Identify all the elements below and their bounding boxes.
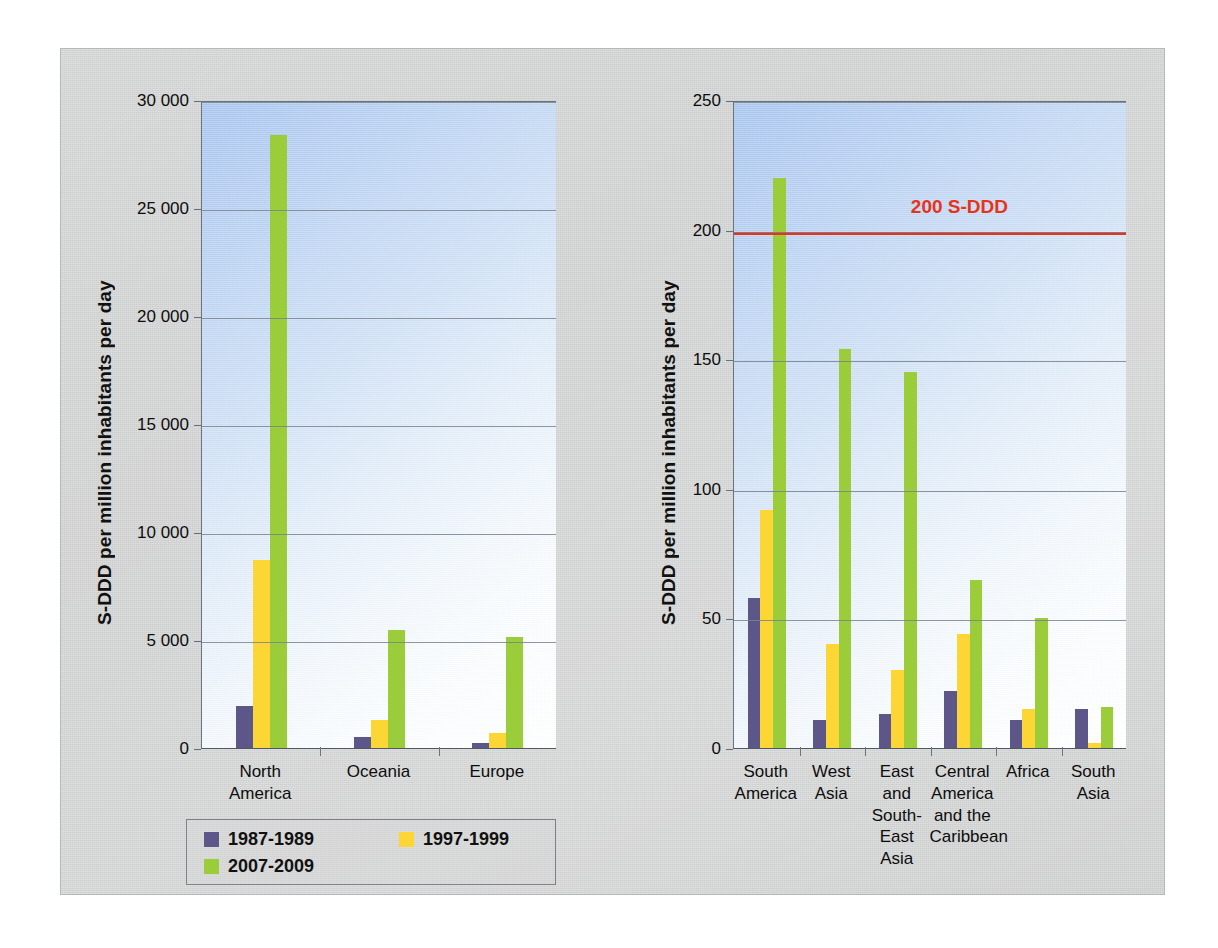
y-tick-label: 30 000 [137, 91, 189, 111]
bar [270, 135, 287, 748]
bar [489, 733, 506, 748]
gridline [202, 318, 556, 319]
chart-panel-left: S-DDD per million inhabitants per day 05… [61, 49, 601, 896]
gridline [202, 426, 556, 427]
y-tick-label: 0 [180, 739, 189, 759]
y-axis-title-right: S-DDD per million inhabitants per day [658, 153, 680, 753]
x-axis-category-label: East and South- East Asia [864, 761, 930, 870]
bar [236, 706, 253, 748]
bar [1035, 618, 1048, 748]
gridline [202, 210, 556, 211]
y-tick-label: 150 [693, 350, 721, 370]
y-tick-label: 20 000 [137, 307, 189, 327]
y-tick-mark [726, 101, 733, 102]
gridline [202, 534, 556, 535]
x-axis-category-label: South Asia [1061, 761, 1127, 805]
y-tick-mark [726, 490, 733, 491]
bar [354, 737, 371, 748]
x-axis-categories-right: South AmericaWest AsiaEast and South- Ea… [733, 761, 1126, 891]
gridline [734, 232, 1126, 233]
legend-item-1987-1989: 1987-1989 [204, 829, 314, 850]
bar [371, 720, 388, 748]
gridline [734, 491, 1126, 492]
x-axis-tick [865, 747, 866, 756]
bar [760, 510, 773, 748]
x-axis-category-label: South America [733, 761, 799, 805]
x-axis-category-label: Africa [995, 761, 1061, 783]
bar [957, 634, 970, 748]
y-tick-mark [194, 317, 201, 318]
y-tick-label: 250 [693, 91, 721, 111]
y-tick-mark [726, 749, 733, 750]
bar [891, 670, 904, 748]
y-tick-mark [194, 641, 201, 642]
bar [1101, 707, 1114, 748]
y-tick-label: 100 [693, 480, 721, 500]
y-tick-mark [194, 209, 201, 210]
bar [506, 637, 523, 748]
plot-area-left [201, 101, 556, 749]
bar [253, 560, 270, 748]
x-axis-category-label: North America [201, 761, 319, 805]
bar [813, 720, 826, 749]
bar [1010, 720, 1023, 749]
bars-layer-left [202, 102, 556, 748]
y-tick-mark [194, 425, 201, 426]
figure-frame: S-DDD per million inhabitants per day 05… [60, 48, 1165, 895]
bar [388, 630, 405, 748]
legend: 1987-1989 1997-1999 2007-2009 [186, 819, 556, 885]
y-tick-mark [726, 231, 733, 232]
threshold-label: 200 S-DDD [911, 196, 1008, 218]
gridline [734, 620, 1126, 621]
legend-swatch-icon [204, 832, 219, 847]
plot-area-right: 200 S-DDD [733, 101, 1126, 749]
bar [1075, 709, 1088, 748]
y-tick-label: 5 000 [146, 631, 189, 651]
y-tick-label: 10 000 [137, 523, 189, 543]
bar [826, 644, 839, 748]
x-axis-category-label: Oceania [319, 761, 437, 783]
legend-label: 2007-2009 [228, 856, 314, 877]
x-axis-tick [1062, 747, 1063, 756]
gridline [734, 102, 1126, 103]
bar [472, 743, 489, 748]
y-tick-mark [194, 749, 201, 750]
gridline [202, 102, 556, 103]
bar [773, 178, 786, 748]
legend-label: 1987-1989 [228, 829, 314, 850]
y-tick-mark [726, 619, 733, 620]
y-tick-label: 200 [693, 221, 721, 241]
y-tick-mark [194, 101, 201, 102]
x-axis-tick [996, 747, 997, 756]
bar [1022, 709, 1035, 748]
gridline [734, 361, 1126, 362]
legend-swatch-icon [204, 859, 219, 874]
x-axis-category-label: Central America and the Caribbean [930, 761, 996, 848]
legend-label: 1997-1999 [423, 829, 509, 850]
bar [1088, 743, 1101, 748]
x-axis-tick [800, 747, 801, 756]
x-axis-tick [320, 747, 321, 756]
gridline [202, 642, 556, 643]
chart-panel-right: S-DDD per million inhabitants per day 20… [601, 49, 1166, 896]
legend-item-1997-1999: 1997-1999 [399, 829, 509, 850]
x-axis-category-label: Europe [438, 761, 556, 783]
bar [944, 691, 957, 748]
x-axis-tick [439, 747, 440, 756]
bar [839, 349, 852, 748]
bar [904, 372, 917, 748]
y-tick-mark [726, 360, 733, 361]
legend-item-2007-2009: 2007-2009 [204, 856, 314, 877]
y-tick-label: 25 000 [137, 199, 189, 219]
y-tick-mark [194, 533, 201, 534]
legend-swatch-icon [399, 832, 414, 847]
x-axis-tick [931, 747, 932, 756]
y-tick-label: 0 [712, 739, 721, 759]
y-tick-label: 50 [702, 609, 721, 629]
bar [970, 580, 983, 748]
y-tick-label: 15 000 [137, 415, 189, 435]
x-axis-category-label: West Asia [799, 761, 865, 805]
bar [879, 714, 892, 748]
y-axis-title-left: S-DDD per million inhabitants per day [94, 153, 116, 753]
